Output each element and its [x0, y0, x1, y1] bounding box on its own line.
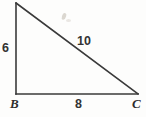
vertex-label-c: C — [132, 97, 141, 110]
side-label-base-leg: 8 — [75, 98, 82, 111]
scan-artifact-smudge-secondary — [66, 19, 71, 22]
side-label-hypotenuse: 10 — [77, 35, 91, 48]
side-hypotenuse — [16, 3, 138, 94]
triangle-diagram: 6 10 8 B C — [0, 0, 146, 117]
side-label-vertical-leg: 6 — [2, 42, 9, 55]
vertex-label-b: B — [10, 97, 19, 110]
triangle-shape — [0, 0, 146, 117]
